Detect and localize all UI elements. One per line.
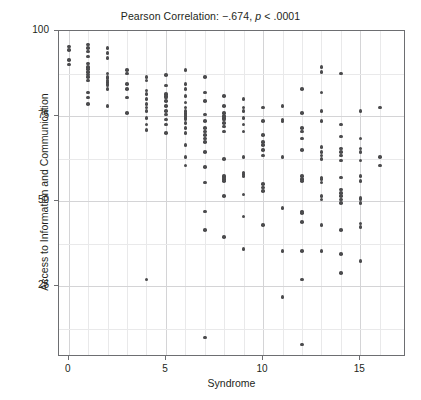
data-point	[339, 228, 343, 232]
data-point	[164, 131, 168, 135]
data-point	[145, 97, 149, 101]
data-point	[242, 97, 246, 101]
gridline-horizontal	[59, 74, 404, 75]
data-point	[320, 119, 324, 123]
data-point	[67, 63, 71, 67]
data-point	[203, 140, 207, 144]
data-point	[184, 155, 188, 159]
data-point	[164, 84, 168, 88]
data-point	[125, 82, 129, 86]
data-point	[184, 131, 188, 135]
gridline-vertical-major	[69, 31, 70, 355]
gridline-vertical-major	[166, 31, 167, 355]
data-point	[203, 99, 207, 103]
data-point	[164, 113, 168, 117]
data-point	[378, 155, 382, 159]
data-point	[281, 119, 285, 123]
data-point	[67, 58, 71, 62]
data-point	[106, 51, 110, 55]
x-axis-tick-label: 5	[145, 363, 185, 374]
data-point	[203, 228, 207, 232]
gridline-vertical	[205, 31, 206, 355]
data-point	[203, 150, 207, 154]
gridline-horizontal	[59, 244, 404, 245]
gridline-vertical	[224, 31, 225, 355]
gridline-vertical	[380, 31, 381, 355]
data-point	[184, 143, 188, 147]
data-point	[125, 87, 129, 91]
data-point	[261, 148, 265, 152]
data-point	[359, 159, 363, 163]
data-point	[145, 116, 149, 120]
data-point	[222, 130, 226, 134]
scatter-plot-figure: Pearson Correlation: −.674, p < .0001 05…	[0, 0, 421, 400]
data-point	[164, 104, 168, 108]
data-point	[203, 181, 207, 185]
data-point	[86, 50, 90, 54]
data-point	[203, 119, 207, 123]
data-point	[359, 259, 363, 263]
data-point	[106, 104, 110, 108]
data-point	[106, 56, 110, 60]
data-point	[86, 79, 90, 83]
y-axis-tick	[54, 115, 58, 116]
data-point	[261, 143, 265, 147]
data-point	[300, 249, 304, 253]
data-point	[359, 225, 363, 229]
data-point	[145, 79, 149, 83]
plot-inner	[59, 31, 404, 355]
data-point	[339, 271, 343, 275]
data-point	[300, 211, 304, 215]
chart-title: Pearson Correlation: −.674, p < .0001	[0, 10, 421, 22]
data-point	[300, 220, 304, 224]
data-point	[164, 118, 168, 122]
data-point	[320, 157, 324, 161]
data-point	[359, 137, 363, 141]
data-point	[359, 201, 363, 205]
data-point	[378, 106, 382, 110]
data-point	[300, 278, 304, 282]
data-point	[339, 159, 343, 163]
data-point	[300, 137, 304, 141]
data-point	[281, 104, 285, 108]
y-axis-tick	[54, 285, 58, 286]
data-point	[242, 247, 246, 251]
data-point	[339, 72, 343, 76]
data-point	[320, 70, 324, 74]
data-point	[203, 210, 207, 214]
x-axis-tick	[68, 356, 69, 360]
gridline-vertical	[185, 31, 186, 355]
gridline-vertical	[321, 31, 322, 355]
data-point	[86, 96, 90, 100]
gridline-vertical	[127, 31, 128, 355]
data-point	[359, 179, 363, 183]
data-point	[164, 73, 168, 77]
data-point	[184, 101, 188, 105]
gridline-horizontal-major	[59, 286, 404, 287]
data-point	[339, 201, 343, 205]
gridline-vertical-major	[360, 31, 361, 355]
data-point	[359, 174, 363, 178]
x-axis-tick	[165, 356, 166, 360]
data-point	[203, 91, 207, 95]
data-point	[86, 55, 90, 59]
data-point	[222, 125, 226, 129]
data-point	[86, 102, 90, 106]
data-point	[242, 174, 246, 178]
data-point	[242, 116, 246, 120]
gridline-horizontal-major	[59, 116, 404, 117]
data-point	[300, 130, 304, 134]
data-point	[261, 106, 265, 110]
data-point	[184, 82, 188, 86]
y-axis-tick	[54, 200, 58, 201]
data-point	[145, 278, 149, 282]
x-axis-tick-label: 10	[242, 363, 282, 374]
data-point	[203, 113, 207, 117]
gridline-vertical	[283, 31, 284, 355]
plot-area	[58, 30, 405, 356]
data-point	[125, 72, 129, 76]
data-point	[320, 223, 324, 227]
data-point	[184, 87, 188, 91]
data-point	[320, 91, 324, 95]
x-axis-label: Syndrome	[58, 377, 405, 389]
